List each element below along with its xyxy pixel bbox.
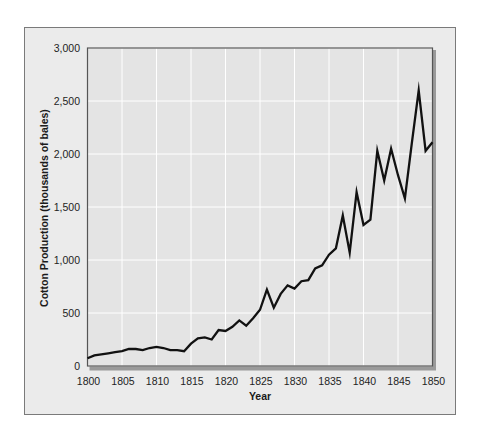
y-tick-label: 0 xyxy=(74,360,80,372)
x-tick-label: 1810 xyxy=(146,375,170,387)
x-tick-label: 1845 xyxy=(387,375,411,387)
x-tick-label: 1835 xyxy=(318,375,342,387)
x-tick-label: 1825 xyxy=(249,375,273,387)
y-tick-label: 3,000 xyxy=(54,42,80,54)
y-tick-label: 500 xyxy=(62,307,80,319)
x-tick-label: 1830 xyxy=(284,375,308,387)
x-tick-label: 1815 xyxy=(180,375,204,387)
y-axis-tick-labels: 05001,0001,5002,0002,5003,000 xyxy=(54,42,80,372)
x-tick-label: 1820 xyxy=(215,375,239,387)
x-tick-label: 1850 xyxy=(422,375,446,387)
y-tick-label: 1,000 xyxy=(54,254,80,266)
x-tick-label: 1840 xyxy=(353,375,377,387)
y-axis-title: Cotton Production (thousands of bales) xyxy=(38,109,50,307)
line-chart: 05001,0001,5002,0002,5003,000 1800180518… xyxy=(0,0,477,433)
x-axis-title: Year xyxy=(249,390,271,402)
x-tick-label: 1800 xyxy=(77,375,101,387)
x-tick-label: 1805 xyxy=(111,375,135,387)
y-tick-label: 1,500 xyxy=(54,201,80,213)
x-axis-tick-labels: 1800180518101815182018251830183518401845… xyxy=(77,375,446,387)
y-tick-label: 2,500 xyxy=(54,95,80,107)
y-tick-label: 2,000 xyxy=(54,148,80,160)
